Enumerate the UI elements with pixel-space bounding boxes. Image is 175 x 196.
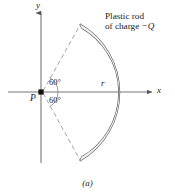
physics-figure-plastic-rod: y x P r 60° 60° Plastic rod of charge −Q… (0, 0, 175, 196)
point-p-label: P (30, 93, 36, 104)
rod-annotation: Plastic rod of charge −Q (105, 11, 154, 32)
rod-annotation-charge: −Q (142, 21, 155, 31)
rod-annotation-line1: Plastic rod (105, 11, 154, 21)
rod-annotation-line2: of charge −Q (105, 21, 154, 31)
radius-label: r (101, 78, 105, 88)
figure-caption: (a) (0, 178, 175, 188)
point-p-marker (38, 89, 43, 94)
angle-label-upper: 60° (49, 78, 61, 88)
angle-label-lower: 60° (49, 96, 61, 106)
x-axis-label: x (157, 85, 161, 95)
y-axis-label: y (36, 0, 40, 10)
rod-annotation-prefix: of charge (105, 21, 142, 31)
